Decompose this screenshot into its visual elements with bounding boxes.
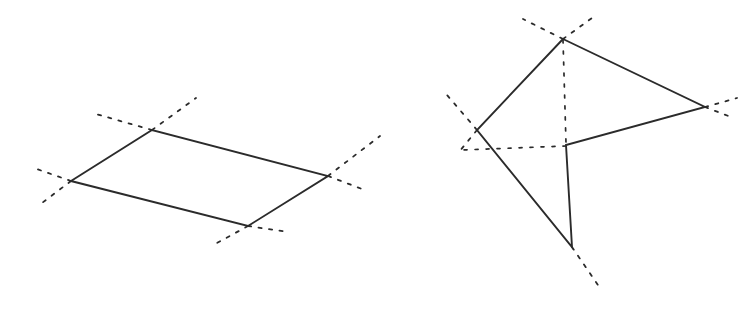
geometry-figure-canvas xyxy=(0,0,749,311)
